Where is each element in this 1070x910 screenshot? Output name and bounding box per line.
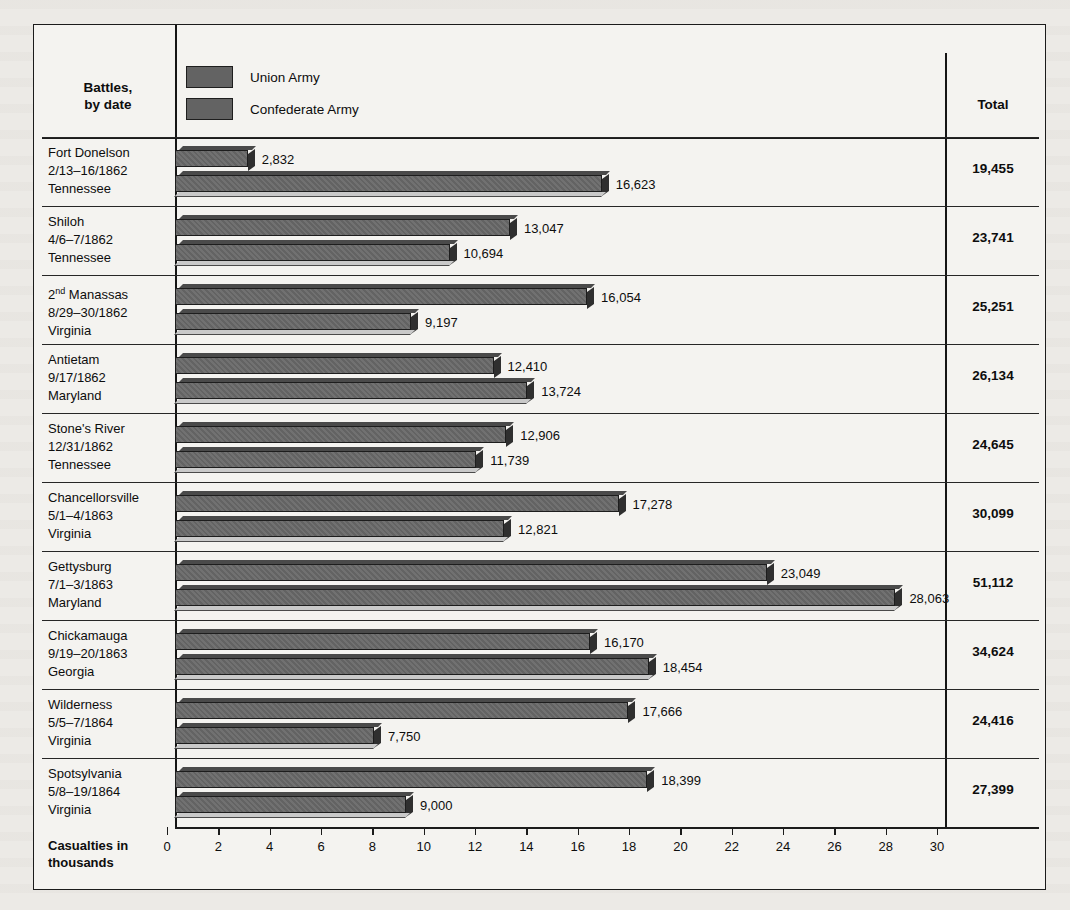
union-value-label: 17,278 bbox=[633, 496, 673, 513]
union-bar-cap bbox=[587, 287, 594, 309]
confederate-bar bbox=[175, 727, 374, 744]
legend-item-confederate-army: Confederate Army bbox=[186, 93, 359, 125]
union-bar bbox=[175, 771, 647, 788]
battles-header-line1: Battles, bbox=[48, 79, 168, 96]
chart-row: Stone's River12/31/1862Tennessee12,90611… bbox=[42, 413, 1039, 482]
row-battle-date: 9/19–20/1863 bbox=[48, 645, 176, 663]
row-battle-state: Tennessee bbox=[48, 456, 176, 474]
row-battle-date: 9/17/1862 bbox=[48, 369, 176, 387]
row-battle-date: 5/5–7/1864 bbox=[48, 714, 176, 732]
row-battle-state: Virginia bbox=[48, 801, 176, 819]
union-bar bbox=[175, 288, 587, 305]
union-bar-cap bbox=[619, 494, 626, 516]
chart-row: Chancellorsville5/1–4/1863Virginia17,278… bbox=[42, 482, 1039, 551]
row-total-value: 27,399 bbox=[947, 782, 1039, 797]
chart-figure: Battles, by date Total Union ArmyConfede… bbox=[33, 24, 1046, 890]
row-battle-state: Virginia bbox=[48, 732, 176, 750]
row-label: Fort Donelson2/13–16/1862Tennessee bbox=[48, 144, 176, 198]
confederate-bar-under bbox=[174, 744, 378, 749]
row-plot-area: 18,3999,000 bbox=[175, 758, 1047, 827]
union-bar-cap bbox=[494, 356, 501, 378]
union-value-label: 16,170 bbox=[604, 634, 644, 651]
chart-row: 2nd Manassas8/29–30/1862Virginia16,0549,… bbox=[42, 275, 1039, 344]
row-battle-state: Maryland bbox=[48, 594, 176, 612]
x-axis-tick bbox=[629, 827, 630, 835]
union-value-label: 16,054 bbox=[601, 289, 641, 306]
union-bar-body bbox=[175, 633, 590, 650]
chart-row: Fort Donelson2/13–16/1862Tennessee2,8321… bbox=[42, 137, 1039, 206]
confederate-value-label: 16,623 bbox=[616, 176, 656, 193]
legend-swatch-union-army bbox=[186, 66, 233, 88]
confederate-bar-under bbox=[174, 192, 606, 197]
row-battle-name: Stone's River bbox=[48, 420, 176, 438]
confederate-bar-under bbox=[174, 606, 899, 611]
confederate-value-label: 9,000 bbox=[420, 797, 453, 814]
legend-item-union-army: Union Army bbox=[186, 61, 359, 93]
row-plot-area: 2,83216,623 bbox=[175, 137, 1047, 206]
x-axis-tick bbox=[526, 827, 527, 835]
x-axis-tick bbox=[321, 827, 322, 835]
x-axis-tick-label: 2 bbox=[215, 839, 222, 854]
x-axis-tick bbox=[270, 827, 271, 835]
union-bar bbox=[175, 357, 494, 374]
union-value-label: 12,906 bbox=[520, 427, 560, 444]
union-bar bbox=[175, 495, 619, 512]
union-bar-body bbox=[175, 771, 647, 788]
x-axis-caption-line2: thousands bbox=[48, 854, 173, 871]
confederate-bar bbox=[175, 382, 527, 399]
row-plot-area: 13,04710,694 bbox=[175, 206, 1047, 275]
legend-label-union-army: Union Army bbox=[250, 70, 320, 85]
confederate-bar bbox=[175, 313, 411, 330]
legend-swatch-confederate-army bbox=[186, 98, 233, 120]
union-bar-body bbox=[175, 495, 619, 512]
x-axis-tick bbox=[732, 827, 733, 835]
union-bar-body bbox=[175, 564, 767, 581]
union-value-label: 17,666 bbox=[642, 703, 682, 720]
chart-row: Wilderness5/5–7/1864Virginia17,6667,7502… bbox=[42, 689, 1039, 758]
union-bar-cap bbox=[628, 701, 635, 723]
confederate-bar-body bbox=[175, 451, 476, 468]
confederate-bar-under bbox=[174, 261, 454, 266]
x-axis-tick-label: 16 bbox=[570, 839, 584, 854]
x-axis-tick bbox=[783, 827, 784, 835]
row-battle-state: Virginia bbox=[48, 322, 176, 340]
x-axis-tick-label: 24 bbox=[776, 839, 790, 854]
row-battle-date: 5/1–4/1863 bbox=[48, 507, 176, 525]
row-label: Shiloh4/6–7/1862Tennessee bbox=[48, 213, 176, 267]
x-axis-tick-label: 26 bbox=[827, 839, 841, 854]
confederate-bar bbox=[175, 451, 476, 468]
row-battle-date: 5/8–19/1864 bbox=[48, 783, 176, 801]
x-axis-tick bbox=[167, 827, 168, 835]
x-axis-tick-label: 22 bbox=[725, 839, 739, 854]
x-axis-tick bbox=[834, 827, 835, 835]
confederate-value-label: 10,694 bbox=[464, 245, 504, 262]
union-bar bbox=[175, 564, 767, 581]
row-label: Wilderness5/5–7/1864Virginia bbox=[48, 696, 176, 750]
union-bar bbox=[175, 219, 510, 236]
row-battle-name: Gettysburg bbox=[48, 558, 176, 576]
row-battle-ordinal: 2nd bbox=[48, 287, 65, 302]
x-axis: 024681012141618202224262830 bbox=[167, 827, 1047, 883]
confederate-bar bbox=[175, 589, 895, 606]
row-label: Stone's River12/31/1862Tennessee bbox=[48, 420, 176, 474]
union-bar-body bbox=[175, 702, 628, 719]
row-total-value: 24,416 bbox=[947, 713, 1039, 728]
confederate-value-label: 7,750 bbox=[388, 728, 421, 745]
x-axis-tick-label: 8 bbox=[369, 839, 376, 854]
row-total-value: 19,455 bbox=[947, 161, 1039, 176]
x-axis-tick-label: 4 bbox=[266, 839, 273, 854]
union-bar-body bbox=[175, 150, 248, 167]
x-axis-tick-label: 30 bbox=[930, 839, 944, 854]
row-battle-date: 8/29–30/1862 bbox=[48, 304, 176, 322]
row-label: Spotsylvania5/8–19/1864Virginia bbox=[48, 765, 176, 819]
row-label: Gettysburg7/1–3/1863Maryland bbox=[48, 558, 176, 612]
confederate-bar-under bbox=[174, 330, 415, 335]
confederate-bar-under bbox=[174, 537, 508, 542]
row-battle-state: Maryland bbox=[48, 387, 176, 405]
confederate-bar-body bbox=[175, 796, 406, 813]
total-column-header: Total bbox=[947, 97, 1039, 112]
confederate-value-label: 9,197 bbox=[425, 314, 458, 331]
confederate-bar-body bbox=[175, 313, 411, 330]
row-plot-area: 16,0549,197 bbox=[175, 275, 1047, 344]
row-label: Chickamauga9/19–20/1863Georgia bbox=[48, 627, 176, 681]
